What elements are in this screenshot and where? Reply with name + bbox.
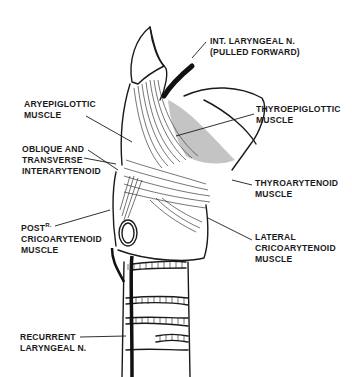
label-line: LATERAL <box>255 232 336 243</box>
label-line: CRICOARYTENOID <box>255 243 336 254</box>
label-line: RECURRENT <box>20 332 86 343</box>
label-thyroarytenoid-muscle: THYROARYTENOID MUSCLE <box>255 178 338 200</box>
label-line: TRANSVERSE <box>22 155 101 166</box>
label-recurrent-laryngeal-nerve: RECURRENT LARYNGEAL N. <box>20 332 86 354</box>
label-interarytenoid: OBLIQUE AND TRANSVERSE INTERARYTENOID <box>22 144 101 177</box>
label-line: ARYEPIGLOTTIC <box>24 99 96 110</box>
label-line: MUSCLE <box>256 115 341 126</box>
larynx-diagram: INT. LARYNGEAL N. (PULLED FORWARD) ARYEP… <box>0 0 352 377</box>
label-aryepiglottic-muscle: ARYEPIGLOTTIC MUSCLE <box>24 99 96 121</box>
label-line: OBLIQUE AND <box>22 144 101 155</box>
label-line: LARYNGEAL N. <box>20 343 86 354</box>
label-line: MUSCLE <box>255 254 336 265</box>
label-line: INT. LARYNGEAL N. <box>210 36 300 47</box>
recurrent-laryngeal-nerve <box>131 256 132 377</box>
label-internal-laryngeal-nerve: INT. LARYNGEAL N. (PULLED FORWARD) <box>210 36 300 58</box>
label-thyroepiglottic-muscle: THYROEPIGLOTTIC MUSCLE <box>256 104 341 126</box>
label-line: INTERARYTENOID <box>22 166 101 177</box>
label-line: (PULLED FORWARD) <box>210 47 300 58</box>
label-line: THYROEPIGLOTTIC <box>256 104 341 115</box>
epiglottis <box>131 27 164 84</box>
label-line: MUSCLE <box>21 245 102 256</box>
cricoid-cartilage <box>118 205 208 260</box>
label-line: MUSCLE <box>24 110 96 121</box>
label-posterior-cricoarytenoid: POSTR. CRICOARYTENOID MUSCLE <box>21 220 102 256</box>
label-line: THYROARYTENOID <box>255 178 338 189</box>
label-line: CRICOARYTENOID <box>21 234 102 245</box>
internal-laryngeal-nerve <box>164 66 192 96</box>
label-lateral-cricoarytenoid: LATERAL CRICOARYTENOID MUSCLE <box>255 232 336 265</box>
label-line: POSTR. <box>21 220 102 234</box>
label-line: MUSCLE <box>255 189 338 200</box>
